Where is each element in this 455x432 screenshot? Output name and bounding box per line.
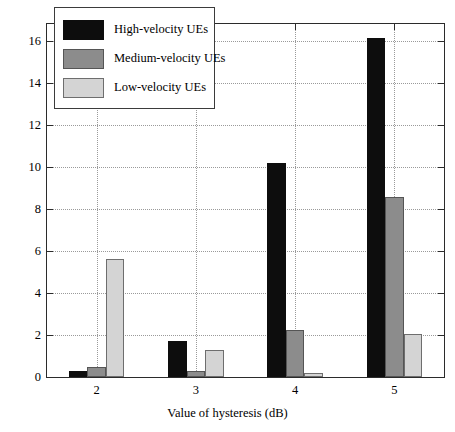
y-tick-mark <box>438 41 444 42</box>
y-tick-mark <box>438 335 444 336</box>
x-tick-mark <box>394 24 395 30</box>
y-tick-label: 16 <box>29 35 42 48</box>
y-tick-mark <box>438 83 444 84</box>
legend-item-medium: Medium-velocity UEs <box>55 44 214 73</box>
y-tick-label: 2 <box>35 329 41 342</box>
y-tick-mark <box>47 83 53 84</box>
y-tick-mark <box>47 209 53 210</box>
bar-high-5 <box>367 38 386 377</box>
legend-item-high: High-velocity UEs <box>55 15 214 44</box>
bar-low-4 <box>304 373 323 377</box>
x-axis-title: Value of hysteresis (dB) <box>0 406 455 421</box>
y-tick-mark <box>438 209 444 210</box>
bar-high-3 <box>168 341 187 377</box>
y-tick-mark <box>47 293 53 294</box>
bar-high-4 <box>267 163 286 377</box>
legend-item-low: Low-velocity UEs <box>55 73 214 102</box>
bar-low-5 <box>404 334 423 377</box>
legend-label: Low-velocity UEs <box>114 80 206 95</box>
y-tick-label: 0 <box>35 371 41 384</box>
y-tick-mark <box>47 377 53 378</box>
legend-swatch-high <box>63 20 104 40</box>
y-tick-label: 12 <box>29 119 42 132</box>
x-tick-label: 3 <box>193 384 199 397</box>
bar-chart-figure: The probability of RLF event to occur fo… <box>0 0 455 432</box>
bar-medium-2 <box>87 367 106 378</box>
y-tick-mark <box>47 41 53 42</box>
bar-low-3 <box>205 350 224 377</box>
y-tick-label: 4 <box>35 287 41 300</box>
bar-low-2 <box>106 259 125 377</box>
y-tick-mark <box>47 251 53 252</box>
y-tick-mark <box>47 167 53 168</box>
y-tick-mark <box>438 377 444 378</box>
legend-swatch-low <box>63 78 104 98</box>
y-tick-mark <box>438 125 444 126</box>
legend-swatch-medium <box>63 49 104 69</box>
legend-label: Medium-velocity UEs <box>114 51 225 66</box>
gridline-vertical <box>295 24 296 377</box>
y-tick-mark <box>438 167 444 168</box>
bar-high-2 <box>69 371 88 377</box>
chart-legend: High-velocity UEsMedium-velocity UEsLow-… <box>54 7 215 109</box>
y-tick-mark <box>438 251 444 252</box>
x-tick-label: 4 <box>292 384 298 397</box>
legend-label: High-velocity UEs <box>114 22 208 37</box>
bar-medium-3 <box>187 371 206 377</box>
y-tick-label: 14 <box>29 77 42 90</box>
y-tick-label: 10 <box>29 161 42 174</box>
x-tick-mark <box>295 24 296 30</box>
y-tick-label: 8 <box>35 203 41 216</box>
x-tick-label: 2 <box>94 384 100 397</box>
bar-medium-5 <box>385 197 404 377</box>
y-tick-mark <box>47 125 53 126</box>
y-tick-mark <box>438 293 444 294</box>
bar-medium-4 <box>286 330 305 377</box>
y-tick-label: 6 <box>35 245 41 258</box>
y-tick-mark <box>47 335 53 336</box>
x-tick-label: 5 <box>391 384 397 397</box>
